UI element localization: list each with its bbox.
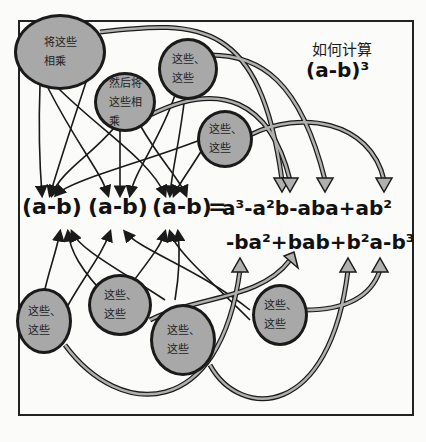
bubble-top-middle: 然后将 这些相 乘	[94, 72, 156, 132]
bubble-label: 这些、 这些	[264, 296, 297, 334]
factor-3: (a-b)	[152, 194, 212, 219]
title-question: 如何计算	[312, 38, 372, 59]
bubble-label: 这些、 这些	[209, 120, 242, 158]
bubble-label: 这些、 这些	[167, 321, 200, 359]
bubble-top-right-1: 这些、 这些	[158, 38, 218, 100]
bubble-label: 将这些 相乘	[44, 33, 77, 71]
bubble-label: 这些、 这些	[172, 50, 205, 88]
bubble-bottom-1: 这些、 这些	[16, 288, 72, 354]
diagram-canvas: 如何计算 (a-b)³ 将这些 相乘 然后将 这些相 乘 这些、 这些 这些、 …	[0, 0, 426, 442]
factor-1: (a-b)	[22, 194, 82, 219]
bubble-bottom-3: 这些、 这些	[150, 304, 216, 376]
bubble-label: 这些、 这些	[28, 302, 61, 340]
bubble-bottom-2: 这些、 这些	[88, 274, 152, 336]
expansion-line-1: a³-a²b-aba+ab²	[222, 196, 392, 220]
bubble-top-right-2: 这些、 这些	[197, 110, 253, 168]
factor-2: (a-b)	[88, 194, 148, 219]
bubble-label: 然后将 这些相 乘	[109, 74, 142, 131]
title-formula: (a-b)³	[306, 58, 369, 82]
bubble-bottom-4: 这些、 这些	[252, 284, 308, 346]
bubble-top-left: 将这些 相乘	[14, 14, 106, 90]
expansion-line-2: -ba²+bab+b²a-b³	[226, 230, 414, 254]
bubble-label: 这些、 这些	[104, 286, 137, 324]
